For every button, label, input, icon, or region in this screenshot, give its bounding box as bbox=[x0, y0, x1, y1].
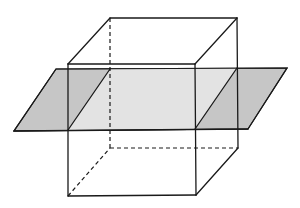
top-right-depth-edge bbox=[195, 18, 237, 64]
bottom-right-depth-edge bbox=[196, 148, 238, 195]
hidden-bottom-left-depth-edge bbox=[68, 148, 110, 196]
top-left-depth-edge bbox=[68, 18, 110, 64]
cube-plane-diagram bbox=[0, 0, 300, 208]
front-bottom-edge bbox=[68, 195, 196, 196]
diagram-canvas bbox=[0, 0, 300, 208]
